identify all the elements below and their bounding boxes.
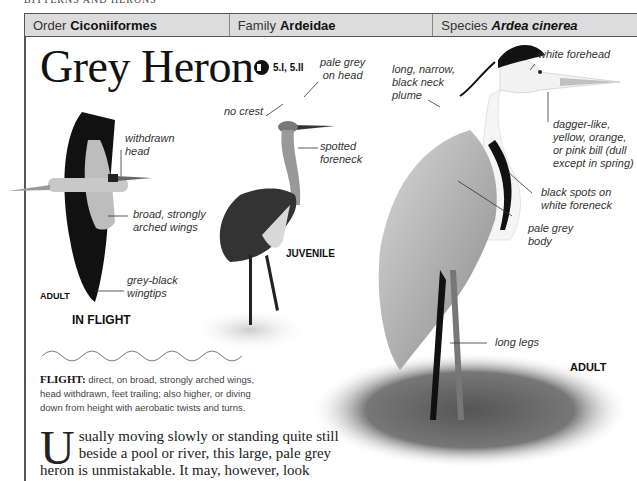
audio-reference[interactable]: 5.I, 5.II	[254, 60, 304, 75]
label-pale-grey-head: pale grey on head	[320, 56, 365, 82]
body-paragraph: Usually moving slowly or standing quite …	[40, 428, 340, 479]
adult-caption: ADULT	[570, 361, 606, 373]
drop-cap: U	[40, 430, 75, 466]
flight-caption: IN FLIGHT	[72, 313, 131, 327]
flight-age-tag: ADULT	[40, 291, 70, 301]
label-withdrawn-head: withdrawn head	[125, 132, 175, 158]
adult-heron-illustration	[310, 45, 630, 468]
wave-divider	[42, 351, 242, 361]
label-bill: dagger-like, yellow, orange, or pink bil…	[553, 118, 634, 170]
page-title: Grey Heron	[40, 40, 253, 93]
label-no-crest: no crest	[224, 105, 263, 118]
speaker-icon[interactable]	[254, 60, 269, 75]
label-long-legs: long legs	[495, 336, 539, 349]
label-white-forehead: white forehead	[538, 48, 610, 61]
label-wingtips: grey-black wingtips	[127, 274, 178, 300]
juvenile-heron-illustration	[190, 121, 335, 352]
label-spotted-foreneck: spotted foreneck	[320, 140, 362, 166]
label-pale-body: pale grey body	[528, 222, 573, 248]
audio-tracks: 5.I, 5.II	[273, 62, 304, 73]
label-arched-wings: broad, strongly arched wings	[133, 208, 206, 234]
label-neck-plume: long, narrow, black neck plume	[392, 63, 455, 102]
flight-heading: FLIGHT:	[40, 373, 86, 385]
label-black-spots: black spots on white foreneck	[541, 186, 612, 212]
body-text: sually moving slowly or standing quite s…	[40, 428, 339, 478]
juvenile-caption: JUVENILE	[286, 248, 335, 259]
flight-description: FLIGHT: direct, on broad, strongly arche…	[40, 372, 260, 415]
